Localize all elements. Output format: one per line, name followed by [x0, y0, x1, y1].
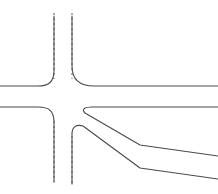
road-edge-ramp-upper: [83, 107, 218, 156]
road-edge-top-left-corner: [0, 16, 54, 86]
road-edge-bottom-left-corner: [0, 107, 54, 182]
road-edge-ramp-lower: [72, 125, 218, 184]
intersection-svg-canvas: [0, 0, 218, 194]
road-intersection-diagram: [0, 0, 218, 194]
road-edge-top-right-corner: [72, 16, 218, 86]
